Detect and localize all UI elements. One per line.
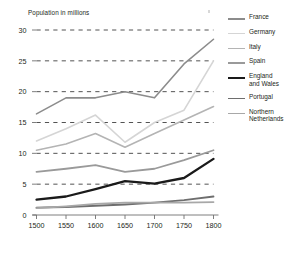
legend-item-label: Portugal: [249, 93, 273, 100]
y-tick-label: 30: [7, 26, 27, 35]
series-line-italy: [37, 106, 214, 150]
legend-item-label: England and Wales: [249, 72, 279, 87]
legend-item[interactable]: Germany: [228, 29, 297, 41]
legend-item-label: Germany: [249, 28, 275, 35]
legend-item[interactable]: Spain: [228, 58, 297, 70]
legend-item-label: Northern Netherlands: [249, 108, 283, 123]
legend-item[interactable]: England and Wales: [228, 73, 297, 85]
legend-swatch-icon: [228, 33, 245, 35]
population-line-chart: Population in millions 051015202530 1500…: [0, 0, 297, 263]
legend-item[interactable]: France: [228, 14, 297, 26]
x-tick-label: 1800: [199, 221, 229, 230]
x-tick-label: 1700: [140, 221, 170, 230]
x-tick-label: 1500: [22, 221, 52, 230]
legend-swatch-icon: [228, 48, 245, 50]
legend-item-label: Spain: [249, 57, 265, 64]
legend-item-label: Italy: [249, 43, 261, 50]
legend-swatch-icon: [228, 98, 245, 100]
y-tick-label: 15: [7, 118, 27, 127]
legend-swatch-icon: [228, 113, 245, 115]
legend-item-label: France: [249, 13, 269, 20]
legend-item[interactable]: Portugal: [228, 94, 297, 106]
x-tick-label: 1650: [110, 221, 140, 230]
y-tick-label: 10: [7, 149, 27, 158]
legend-item[interactable]: Italy: [228, 44, 297, 56]
series-line-germany: [37, 61, 214, 142]
series-line-france: [37, 39, 214, 114]
y-tick-label: 0: [7, 211, 27, 220]
x-tick-label: 1750: [169, 221, 199, 230]
legend-swatch-icon: [228, 62, 245, 64]
legend-item[interactable]: Northern Netherlands: [228, 109, 297, 121]
y-tick-label: 25: [7, 57, 27, 66]
legend-swatch-icon: [228, 77, 245, 79]
x-tick-label: 1600: [81, 221, 111, 230]
y-tick-label: 20: [7, 87, 27, 96]
x-tick-label: 1550: [51, 221, 81, 230]
legend-swatch-icon: [228, 18, 245, 20]
series-line-england-and-wales: [37, 159, 214, 200]
y-tick-label: 5: [7, 180, 27, 189]
